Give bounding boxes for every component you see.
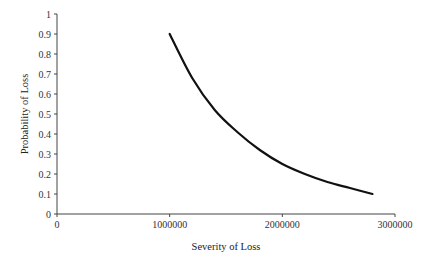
y-axis: 00.10.20.30.40.50.60.70.80.91 — [39, 9, 58, 220]
x-axis: 0100000020000003000000 — [55, 214, 413, 230]
y-tick-label: 0.2 — [39, 169, 52, 180]
y-tick-label: 0.7 — [39, 69, 52, 80]
chart: 00.10.20.30.40.50.60.70.80.91 0100000020… — [0, 0, 432, 265]
x-tick-label: 0 — [55, 219, 60, 230]
y-tick-label: 0.5 — [39, 109, 52, 120]
y-tick-label: 0.4 — [39, 129, 52, 140]
y-tick-label: 0.9 — [39, 29, 52, 40]
y-axis-title: Probability of Loss — [19, 74, 30, 155]
x-axis-title: Severity of Loss — [192, 241, 261, 252]
y-tick-label: 0.6 — [39, 89, 52, 100]
y-tick-label: 0.8 — [39, 49, 52, 60]
y-tick-label: 1 — [46, 9, 51, 20]
y-tick-label: 0.1 — [39, 189, 52, 200]
x-tick-label: 1000000 — [152, 219, 187, 230]
y-tick-label: 0 — [46, 209, 51, 220]
x-tick-label: 3000000 — [378, 219, 413, 230]
plot-area — [170, 34, 373, 194]
y-tick-label: 0.3 — [39, 149, 52, 160]
x-tick-label: 2000000 — [265, 219, 300, 230]
series-line — [170, 34, 373, 194]
